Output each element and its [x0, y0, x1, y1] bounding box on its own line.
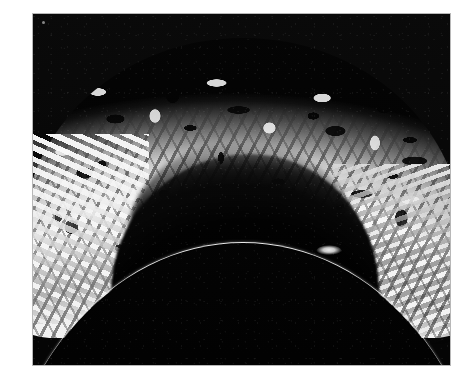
- page-root: [0, 0, 470, 388]
- photograph: [33, 14, 450, 365]
- limb-knot: [316, 245, 342, 255]
- speck-artifact: [42, 21, 45, 24]
